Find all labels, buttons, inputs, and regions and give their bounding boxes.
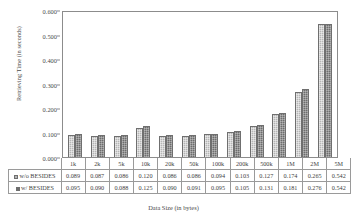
bar-group [64,12,87,157]
bar [204,134,211,157]
table-cell-value: 0.120 [133,170,157,182]
table-cell-value: 0.276 [303,182,327,194]
table-cell-value: 0.105 [230,182,254,194]
bar [91,136,98,157]
y-axis-tick-label: 0.600 [43,8,57,15]
legend-entry: w/ BESIDES [9,182,62,194]
table-cell-value: 0.095 [206,182,230,194]
bar [211,134,218,157]
x-axis-category-label: 100k [206,158,230,170]
table-cell-value: 0.125 [133,182,157,194]
bar [272,114,279,157]
bar [136,128,143,157]
bar [257,125,264,157]
table-cell-value: 0.086 [158,170,182,182]
plot-area [62,11,338,158]
y-axis-tick-mark [57,133,60,134]
table-cell-value: 0.265 [303,170,327,182]
bar [318,24,325,157]
bar-group [87,12,110,157]
bar-group [268,12,291,157]
bar-group [313,12,336,157]
table-cell-value: 0.088 [109,182,133,194]
bar-group [291,12,314,157]
table-cell-value: 0.174 [278,170,302,182]
bar [159,136,166,157]
bar [75,134,82,157]
legend-entry: w/o BESIDES [9,170,62,182]
bar-groups [63,12,337,157]
table-cell-value: 0.127 [254,170,278,182]
bar [279,113,286,157]
data-table: 1k2k5k10k20k50k100k200k500k1M2M5Mw/o BES… [8,158,351,194]
bar [114,136,121,157]
x-axis-category-label: 200k [230,158,254,170]
table-cell-value: 0.086 [182,170,206,182]
x-axis-category-label: 2k [85,158,109,170]
bar [325,24,332,157]
bar-group [245,12,268,157]
bar-group [109,12,132,157]
legend-label: w/o BESIDES [20,172,56,179]
y-axis-tick-label: 0.100 [43,130,57,137]
legend-label: w/ BESIDES [21,184,54,191]
y-axis-tick-mark [57,109,60,110]
legend-swatch-icon [14,175,18,179]
y-axis-tick-mark [57,84,60,85]
table-cell-value: 0.542 [327,170,351,182]
x-axis-category-label: 5k [109,158,133,170]
bar [189,135,196,157]
table-row: w/ BESIDES0.0950.0900.0880.1250.0900.091… [9,182,351,194]
y-axis-tick-label: 0.300 [43,81,57,88]
table-cell-value: 0.103 [230,170,254,182]
x-axis-category-label: 20k [158,158,182,170]
bar [68,135,75,157]
x-axis-category-label: 2M [303,158,327,170]
bar-group [200,12,223,157]
x-axis-category-label: 50k [182,158,206,170]
bar [302,89,309,157]
x-axis-category-label: 5M [327,158,351,170]
table-cell-value: 0.090 [158,182,182,194]
table-cell-value: 0.091 [182,182,206,194]
y-axis-tick-label: 0.200 [43,106,57,113]
y-axis-ticks: 0.0000.1000.2000.3000.4000.5000.600 [30,11,60,158]
table-cell-value: 0.087 [85,170,109,182]
y-axis-tick-label: 0.400 [43,57,57,64]
y-axis-tick-mark [57,11,60,12]
plot-area-wrapper [62,11,338,158]
table-cell-value: 0.089 [61,170,85,182]
bar [182,136,189,157]
table-cell-value: 0.094 [206,170,230,182]
table-cell-value: 0.090 [85,182,109,194]
bar-group [223,12,246,157]
x-axis-category-label: 1M [278,158,302,170]
legend-swatch-icon [16,187,20,191]
bar [295,92,302,157]
x-axis-category-label: 10k [133,158,157,170]
y-axis-tick-label: 0.500 [43,32,57,39]
data-table-body: 1k2k5k10k20k50k100k200k500k1M2M5Mw/o BES… [9,158,351,194]
table-cell-value: 0.181 [278,182,302,194]
table-cell-value: 0.086 [109,170,133,182]
bar [234,131,241,157]
bar-group [155,12,178,157]
bar [98,135,105,157]
table-cell-value: 0.131 [254,182,278,194]
table-cell-value: 0.542 [327,182,351,194]
x-axis-category-label: 1k [61,158,85,170]
table-corner-cell [9,158,62,170]
bar-group [177,12,200,157]
bar [227,132,234,157]
x-axis-title: Data Size (in bytes) [0,204,347,211]
y-axis-title: Retrieving Time (in seconds) [15,0,22,129]
bar [250,126,257,157]
x-axis-category-label: 500k [254,158,278,170]
table-row: 1k2k5k10k20k50k100k200k500k1M2M5M [9,158,351,170]
table-row: w/o BESIDES0.0890.0870.0860.1200.0860.08… [9,170,351,182]
y-axis-tick-mark [57,35,60,36]
bar [143,126,150,157]
bar-group [132,12,155,157]
bar [121,135,128,157]
